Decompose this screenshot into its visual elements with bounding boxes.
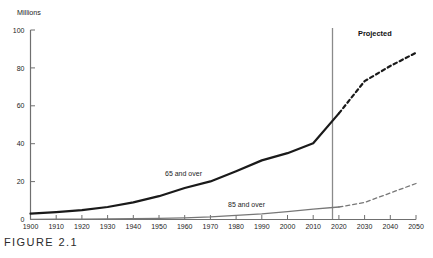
x-tick-label: 2010 [305, 223, 321, 230]
x-tick-label: 1960 [177, 223, 193, 230]
series-line-solid-0 [31, 113, 339, 213]
x-tick-label: 1970 [203, 223, 219, 230]
series-label-85-and-over: 85 and over [228, 201, 266, 208]
y-tick-label: 40 [17, 140, 25, 147]
x-tick-label: 2040 [383, 223, 399, 230]
series-line-projected-0 [339, 53, 416, 114]
x-tick-label: 1980 [228, 223, 244, 230]
figure-container: 020406080100 190019101920193019401950196… [0, 0, 433, 258]
x-tick-label: 2050 [408, 223, 424, 230]
projected-label: Projected [358, 29, 392, 38]
y-tick-label: 100 [13, 27, 25, 34]
y-tick-label: 80 [17, 65, 25, 72]
figure-caption: FIGURE 2.1 [4, 236, 78, 248]
chart-series-paths [31, 53, 417, 220]
x-tick-label: 2000 [280, 223, 296, 230]
population-projection-chart: 020406080100 190019101920193019401950196… [0, 0, 433, 236]
series-label-65-and-over: 65 and over [165, 170, 203, 177]
x-tick-label: 2020 [331, 223, 347, 230]
chart-axes [31, 30, 417, 220]
y-axis-ticks: 020406080100 [13, 27, 35, 224]
y-tick-label: 20 [17, 178, 25, 185]
x-tick-label: 1900 [23, 223, 39, 230]
y-tick-label: 60 [17, 102, 25, 109]
series-line-solid-1 [31, 207, 339, 219]
x-axis-ticks: 1900191019201930194019501960197019801990… [23, 215, 424, 230]
x-tick-label: 1990 [254, 223, 270, 230]
y-axis-title: Millions [17, 8, 41, 17]
x-tick-label: 1950 [151, 223, 167, 230]
series-line-projected-1 [339, 184, 416, 207]
x-tick-label: 2030 [357, 223, 373, 230]
x-tick-label: 1910 [48, 223, 64, 230]
x-tick-label: 1930 [100, 223, 116, 230]
x-tick-label: 1940 [126, 223, 142, 230]
x-tick-label: 1920 [74, 223, 90, 230]
